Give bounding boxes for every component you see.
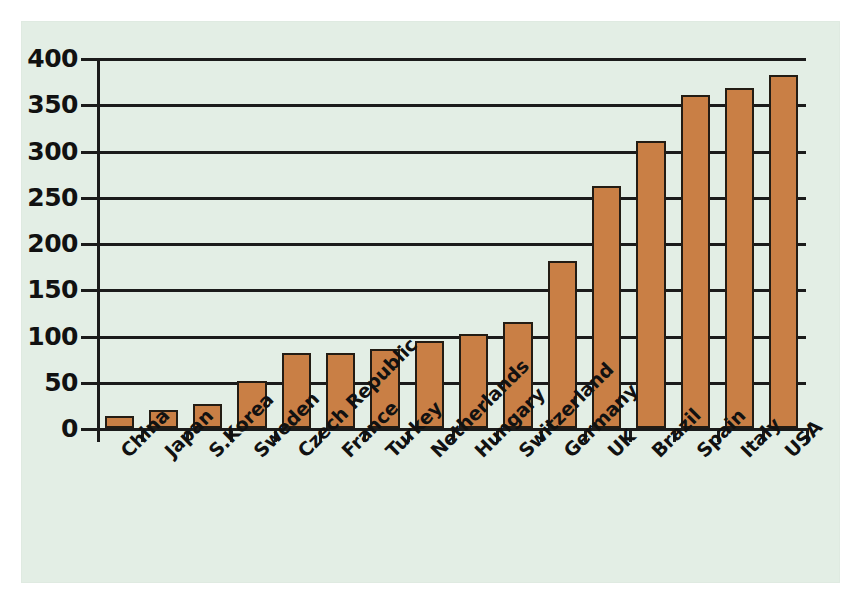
y-tick-mark-400 xyxy=(81,58,97,61)
y-tick-label: 150 xyxy=(14,275,78,304)
y-tick-label: 250 xyxy=(14,182,78,211)
x-tick-mark xyxy=(97,428,100,442)
bar xyxy=(681,95,710,428)
y-tick-label: 300 xyxy=(14,136,78,165)
chart-figure: 400 350 300 250 200 150 100 50 0 ChinaJa… xyxy=(0,0,861,605)
bar xyxy=(725,88,754,428)
y-tick-mark-350 xyxy=(81,104,97,107)
y-tick-mark-300 xyxy=(81,151,97,154)
y-tick-mark-100 xyxy=(81,336,97,339)
y-tick-label: 100 xyxy=(14,321,78,350)
y-tick-mark-150 xyxy=(81,289,97,292)
y-axis-labels: 400 350 300 250 200 150 100 50 0 xyxy=(0,0,78,605)
bar xyxy=(769,75,798,428)
y-tick-label: 400 xyxy=(14,44,78,73)
bar xyxy=(636,141,665,428)
bar xyxy=(105,416,134,428)
bar-series xyxy=(97,58,806,428)
y-tick-label: 200 xyxy=(14,229,78,258)
y-tick-mark-200 xyxy=(81,243,97,246)
y-tick-mark-0 xyxy=(81,428,97,431)
y-tick-mark-250 xyxy=(81,197,97,200)
y-tick-label: 350 xyxy=(14,90,78,119)
y-tick-mark-50 xyxy=(81,382,97,385)
y-tick-label: 0 xyxy=(14,414,78,443)
y-tick-label: 50 xyxy=(14,367,78,396)
